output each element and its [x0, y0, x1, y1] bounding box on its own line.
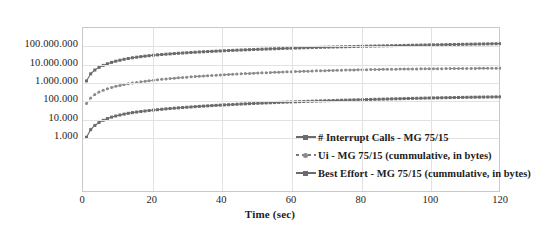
series-marker: [177, 52, 180, 55]
series-marker: [127, 57, 130, 60]
series-marker: [202, 74, 205, 77]
series-marker: [231, 103, 234, 106]
series-marker: [198, 75, 201, 78]
series-marker: [240, 49, 243, 52]
series-marker: [123, 58, 126, 61]
y-axis-tick-label: 1.000: [0, 130, 78, 141]
gridline-horizontal: [83, 65, 499, 66]
series-marker: [173, 107, 176, 110]
series-marker: [244, 102, 247, 105]
series-marker: [465, 67, 468, 70]
series-marker: [206, 74, 209, 77]
series-marker: [336, 69, 339, 72]
series-marker: [294, 70, 297, 73]
series-marker: [248, 72, 251, 75]
series-marker: [160, 78, 163, 81]
series-marker: [181, 52, 184, 55]
series-marker: [470, 67, 473, 70]
x-axis-tick-label: 40: [201, 194, 241, 205]
series-marker: [486, 67, 489, 70]
series-marker: [98, 91, 101, 94]
series-marker: [139, 55, 142, 58]
series-marker: [202, 50, 205, 53]
series-marker: [223, 73, 226, 76]
series-marker: [369, 68, 372, 71]
series-marker: [89, 97, 92, 100]
series-marker: [490, 42, 493, 45]
series-marker: [390, 97, 393, 100]
series-marker: [495, 42, 498, 45]
series-marker: [365, 68, 368, 71]
series-marker: [194, 105, 197, 108]
x-axis-tick-label: 20: [132, 194, 172, 205]
series-marker: [344, 69, 347, 72]
series-marker: [453, 96, 456, 99]
series-marker: [403, 68, 406, 71]
series-marker: [261, 71, 264, 74]
series-marker: [490, 67, 493, 70]
series-marker: [298, 70, 301, 73]
series-marker: [219, 104, 222, 107]
legend-item-interrupt-calls: # Interrupt Calls - MG 75/15: [296, 128, 536, 146]
series-marker: [307, 70, 310, 73]
series-marker: [177, 106, 180, 109]
series-marker: [407, 97, 410, 100]
legend-label: Ui - MG 75/15 (cummulative, in bytes): [318, 150, 492, 161]
series-marker: [244, 48, 247, 51]
series-marker: [235, 49, 238, 52]
series-marker: [424, 67, 427, 70]
series-marker: [461, 96, 464, 99]
series-marker: [398, 68, 401, 71]
series-marker: [490, 95, 493, 98]
series-marker: [327, 69, 330, 72]
series-marker: [252, 72, 255, 75]
series-marker: [189, 75, 192, 78]
series-marker: [98, 66, 101, 69]
series-marker: [194, 51, 197, 54]
series-marker: [378, 98, 381, 101]
series-marker: [118, 84, 121, 87]
x-axis-tick-label: 120: [480, 194, 520, 205]
series-marker: [323, 69, 326, 72]
series-marker: [386, 98, 389, 101]
series-marker: [227, 49, 230, 52]
chart-figure: 1.00010.000100.0001.000.00010.000.000100…: [0, 0, 540, 235]
series-marker: [474, 67, 477, 70]
series-marker: [315, 69, 318, 72]
series-marker: [478, 67, 481, 70]
series-marker: [148, 79, 151, 82]
series-marker: [378, 68, 381, 71]
series-marker: [382, 68, 385, 71]
series-marker: [265, 48, 268, 51]
series-marker: [373, 68, 376, 71]
series-marker: [415, 67, 418, 70]
series-marker: [403, 97, 406, 100]
series-marker: [407, 68, 410, 71]
series-marker: [185, 51, 188, 54]
series-marker: [144, 110, 147, 113]
series-marker: [357, 68, 360, 71]
legend-label: # Interrupt Calls - MG 75/15: [318, 132, 449, 143]
gridline-horizontal: [83, 46, 499, 47]
series-marker: [181, 106, 184, 109]
series-marker: [123, 113, 126, 116]
series-marker: [411, 97, 414, 100]
x-axis-tick-label: 0: [62, 194, 102, 205]
series-marker: [93, 69, 96, 72]
series-marker: [457, 96, 460, 99]
series-marker: [436, 96, 439, 99]
series-marker: [311, 70, 314, 73]
x-axis-title: Time (sec): [0, 208, 540, 220]
series-marker: [415, 97, 418, 100]
series-marker: [181, 76, 184, 79]
series-marker: [428, 97, 431, 100]
series-marker: [185, 76, 188, 79]
series-marker: [444, 96, 447, 99]
series-marker: [332, 69, 335, 72]
series-marker: [482, 42, 485, 45]
chart-legend: # Interrupt Calls - MG 75/15 Ui - MG 75/…: [296, 128, 536, 182]
legend-marker-square-icon: [296, 168, 316, 178]
series-marker: [265, 71, 268, 74]
y-axis-tick-label: 100.000.000: [0, 38, 78, 49]
series-marker: [173, 52, 176, 55]
